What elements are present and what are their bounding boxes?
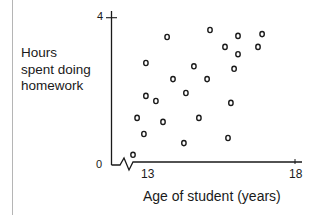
data-point	[184, 90, 188, 95]
data-point	[182, 141, 186, 146]
data-point	[171, 77, 175, 82]
data-point	[205, 77, 209, 82]
data-point	[229, 100, 233, 105]
data-point	[161, 119, 165, 124]
data-point	[208, 27, 212, 32]
data-point	[144, 93, 148, 98]
data-point	[154, 98, 158, 103]
data-point	[165, 34, 169, 39]
data-point	[197, 115, 201, 120]
data-point	[226, 135, 230, 140]
data-point	[256, 44, 260, 49]
data-point	[260, 31, 264, 36]
data-point	[232, 66, 236, 71]
data-point	[192, 64, 196, 69]
x-axis-line-with-break	[112, 158, 303, 170]
data-point	[142, 131, 146, 136]
data-point	[236, 52, 240, 57]
data-point	[144, 60, 148, 65]
data-point	[131, 152, 135, 157]
data-point	[236, 33, 240, 38]
scatter-plot	[0, 0, 319, 215]
data-points	[131, 27, 264, 157]
data-point	[223, 44, 227, 49]
data-point	[135, 115, 139, 120]
